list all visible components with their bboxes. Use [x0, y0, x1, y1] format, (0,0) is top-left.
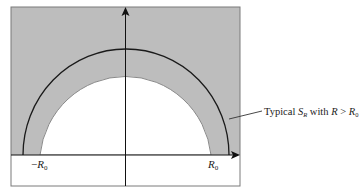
annotation-label: Typical SR with R > R0: [264, 106, 358, 118]
contour-diagram: −R0 R0 Typical SR with R > R0: [0, 0, 361, 194]
